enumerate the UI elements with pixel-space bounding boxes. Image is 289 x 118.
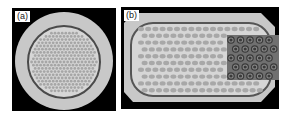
magnified-inset	[227, 35, 279, 80]
panel-b-label: (b)	[124, 10, 139, 21]
panel-a-image	[12, 8, 116, 111]
panel-a: (a)	[12, 8, 116, 111]
panel-a-label: (a)	[15, 11, 30, 22]
panel-b: (b)	[121, 7, 279, 109]
panel-b-image	[121, 7, 279, 109]
